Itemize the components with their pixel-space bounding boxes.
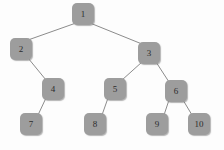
tree-node-9[interactable]: 9 bbox=[146, 113, 168, 135]
tree-node-7[interactable]: 7 bbox=[20, 113, 42, 135]
tree-node-label: 6 bbox=[174, 86, 179, 95]
binary-tree-diagram: 12345678910 bbox=[0, 0, 224, 150]
tree-node-label: 2 bbox=[19, 44, 24, 53]
tree-edge-1-3 bbox=[90, 23, 142, 44]
tree-node-label: 4 bbox=[51, 84, 56, 93]
tree-edge-2-4 bbox=[28, 58, 46, 80]
tree-node-1[interactable]: 1 bbox=[72, 3, 94, 25]
tree-edge-1-2 bbox=[28, 23, 76, 40]
tree-node-10[interactable]: 10 bbox=[188, 113, 210, 135]
tree-node-6[interactable]: 6 bbox=[165, 80, 187, 102]
tree-node-4[interactable]: 4 bbox=[42, 78, 64, 100]
tree-node-label: 10 bbox=[195, 119, 204, 128]
tree-node-label: 5 bbox=[113, 84, 118, 93]
tree-node-5[interactable]: 5 bbox=[104, 78, 126, 100]
tree-edge-3-6 bbox=[156, 62, 169, 82]
tree-node-3[interactable]: 3 bbox=[138, 42, 160, 64]
tree-edge-3-5 bbox=[122, 62, 142, 80]
tree-node-label: 7 bbox=[29, 119, 34, 128]
tree-node-label: 8 bbox=[93, 119, 98, 128]
tree-node-label: 3 bbox=[147, 48, 152, 57]
tree-node-label: 1 bbox=[81, 9, 86, 18]
tree-edge-4-7 bbox=[38, 98, 46, 115]
tree-node-label: 9 bbox=[155, 119, 160, 128]
tree-node-8[interactable]: 8 bbox=[84, 113, 106, 135]
tree-node-2[interactable]: 2 bbox=[10, 38, 32, 60]
